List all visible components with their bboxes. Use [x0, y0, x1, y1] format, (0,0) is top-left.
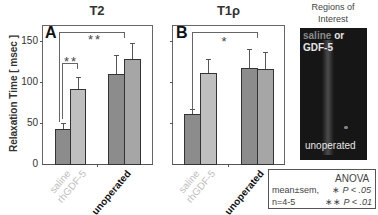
sig-bracket-drop [257, 32, 258, 38]
bar-a-saline [55, 129, 71, 165]
legend-anova: ANOVA [335, 173, 369, 184]
y-axis-label: Relaxation Time [ msec ] [8, 29, 19, 159]
panel-a-letter: A [45, 24, 57, 42]
roi-spot [344, 126, 348, 129]
roi-label-unoperated: unoperated [305, 140, 356, 152]
legend-p01-text: P < .01 [344, 197, 372, 207]
roi-label-top: saline or GDF-5 [303, 30, 344, 54]
error-bar [265, 52, 266, 69]
roi-title-line1: Regions of [290, 1, 376, 13]
x-label-unoperated: unoperated [222, 168, 265, 215]
error-cap [263, 52, 268, 53]
roi-label-saline: saline [303, 30, 331, 41]
roi-streak [322, 40, 334, 155]
x-label-unoperated: unoperated [89, 168, 132, 215]
roi-label-or: or [331, 30, 344, 41]
star-icon: ∗∗ [325, 197, 341, 207]
tick-mark [40, 41, 43, 42]
y-tick-150: 150 [16, 35, 38, 46]
error-bar [132, 43, 133, 59]
roi-title: Regions of Interest [290, 1, 376, 25]
tick-mark [40, 123, 43, 124]
legend-mean-sem: mean±sem, [272, 185, 319, 195]
bar-a-unoperated-2 [124, 59, 141, 165]
tick-mark [40, 82, 43, 83]
legend-p05: ∗ P < .05 [332, 185, 371, 195]
tick-mark [97, 164, 98, 167]
tick-mark [170, 123, 173, 124]
tick-mark [170, 41, 173, 42]
panel-a-title: T2 [42, 3, 152, 18]
error-cap [61, 123, 66, 124]
panel-b-letter: B [176, 24, 188, 42]
legend-n: n=4-5 [272, 197, 295, 207]
panel-b-title: T1ρ [172, 3, 285, 18]
tick-mark [228, 164, 229, 167]
roi-label-gdf5: GDF-5 [303, 42, 333, 53]
sig-stars-long-b: * [215, 34, 235, 49]
bar-b-unoperated-2 [257, 69, 274, 165]
y-tick-50: 50 [16, 117, 38, 128]
roi-title-line2: Interest [290, 13, 376, 25]
roi-image: saline or GDF-5 unoperated [300, 28, 367, 160]
sig-stars-long-a: ** [80, 32, 110, 47]
tick-mark [170, 82, 173, 83]
sig-stars-short-a: ** [58, 54, 84, 69]
legend-p01: ∗∗ P < .01 [325, 197, 372, 207]
stats-legend: ANOVA mean±sem, n=4-5 ∗ P < .05 ∗∗ P < .… [268, 169, 376, 209]
bar-b-saline [184, 114, 201, 165]
sig-bracket-short-a [62, 63, 78, 119]
legend-p05-text: P < .05 [343, 185, 371, 195]
y-tick-0: 0 [16, 158, 38, 169]
y-tick-100: 100 [16, 76, 38, 87]
star-icon: ∗ [332, 185, 340, 195]
error-cap [130, 43, 135, 44]
sig-bracket-drop [124, 32, 125, 38]
